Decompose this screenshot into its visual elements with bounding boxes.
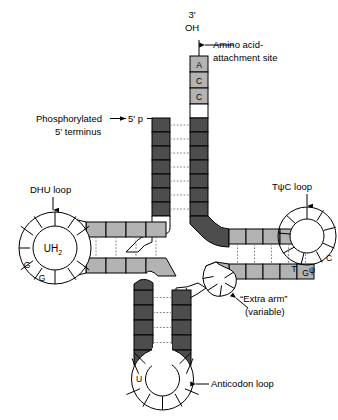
label-anticodon-loop: Anticodon loop <box>211 378 274 389</box>
anticodon-right-box-4 <box>172 335 191 350</box>
label-dhu-loop: DHU loop <box>30 184 71 195</box>
acceptor-3p-box-7 <box>190 202 208 216</box>
label-extra-arm-line2: (variable) <box>245 306 285 317</box>
dhu-upper-box-2 <box>106 222 126 237</box>
acceptor-stem-3prime-strand: A C C <box>190 40 229 247</box>
anticodon-loop-stem-gap <box>153 344 172 366</box>
label-phosphorylated-line2: 5' terminus <box>55 126 101 137</box>
nucleotide-box-unpaired <box>190 104 208 118</box>
anticodon-left-box-1 <box>134 290 153 305</box>
anticodon-loop-inner-circle <box>146 362 180 396</box>
anticodon-left-box-3 <box>134 320 153 335</box>
label-amino-acid-line1: Amino acid- <box>213 39 263 50</box>
dhu-nucleotide-label-G2: G <box>39 273 46 283</box>
acceptor-3p-box-1 <box>190 118 208 132</box>
acceptor-5p-box-6 <box>152 188 170 202</box>
acceptor-3p-box-6 <box>190 188 208 202</box>
nucleotide-label-C1: C <box>196 76 202 86</box>
dhu-upper-box-3 <box>126 222 146 237</box>
acceptor-5p-box-2 <box>152 132 170 146</box>
label-tpsic-loop: TψC loop <box>272 181 312 192</box>
tarm-lower-box-2 <box>246 264 263 279</box>
tarm-nucleotide-label-G: G <box>302 268 309 278</box>
dhu-nucleotide-label-G1: G <box>24 260 31 270</box>
anticodon-left-top-connector <box>134 279 153 290</box>
anticodon-left-box-4 <box>134 335 153 350</box>
anticodon-right-box-2 <box>172 305 191 320</box>
label-amino-acid-line2: attachment site <box>213 52 277 63</box>
nucleotide-label-A: A <box>196 60 202 70</box>
acceptor-to-tarm-elbow <box>190 216 229 247</box>
tarm-upper-box-3 <box>263 229 280 244</box>
trna-structure-svg: A C C U <box>0 0 338 420</box>
acceptor-5p-box-1 <box>152 118 170 132</box>
dhu-arm: A <box>19 212 176 284</box>
anticodon-right-box-3 <box>172 320 191 335</box>
tarm-upper-box-1 <box>229 229 246 244</box>
label-oh: OH <box>185 22 199 33</box>
acceptor-5p-box-5 <box>152 174 170 188</box>
tpsic-loop-inner-circle <box>290 219 324 253</box>
acceptor-3p-box-3 <box>190 146 208 160</box>
tpsic-nucleotide-label-psi: ψ <box>309 265 315 275</box>
dhu-lower-box-3 <box>126 258 146 273</box>
acceptor-3p-box-4 <box>190 160 208 174</box>
dhu-lower-box-2 <box>106 258 126 273</box>
acceptor-stem-basepairs <box>170 125 190 209</box>
tarm-lower-box-3 <box>263 264 280 279</box>
dhu-loop-ring: G G UH2 <box>19 212 91 284</box>
trna-cloverleaf-diagram: A C C U <box>0 0 338 420</box>
dhu-lower-box-4-elbow <box>146 258 176 276</box>
acceptor-5p-box-7 <box>152 202 170 216</box>
acceptor-5p-box-4 <box>152 160 170 174</box>
label-five-prime-p: 5' p <box>128 113 143 124</box>
anticodon-nucleotide-label-U: U <box>136 374 142 384</box>
nucleotide-label-C2: C <box>196 92 202 102</box>
anticodon-arm: U <box>127 279 199 410</box>
label-three-prime: 3' <box>188 9 195 20</box>
tarm-upper-box-2 <box>246 229 263 244</box>
acceptor-3p-box-2 <box>190 132 208 146</box>
anticodon-right-box-1 <box>172 290 191 305</box>
label-phosphorylated-line1: Phosphorylated <box>36 113 102 124</box>
anticodon-left-box-2 <box>134 305 153 320</box>
tpsic-nucleotide-label-C2: C <box>326 253 332 263</box>
acceptor-3p-box-5 <box>190 174 208 188</box>
dhu-upper-box-4 <box>146 222 166 237</box>
acceptor-5p-box-3 <box>152 146 170 160</box>
tpsic-nucleotide-label-T: T <box>291 264 296 274</box>
label-extra-arm-line1: “Extra arm” <box>240 293 288 304</box>
